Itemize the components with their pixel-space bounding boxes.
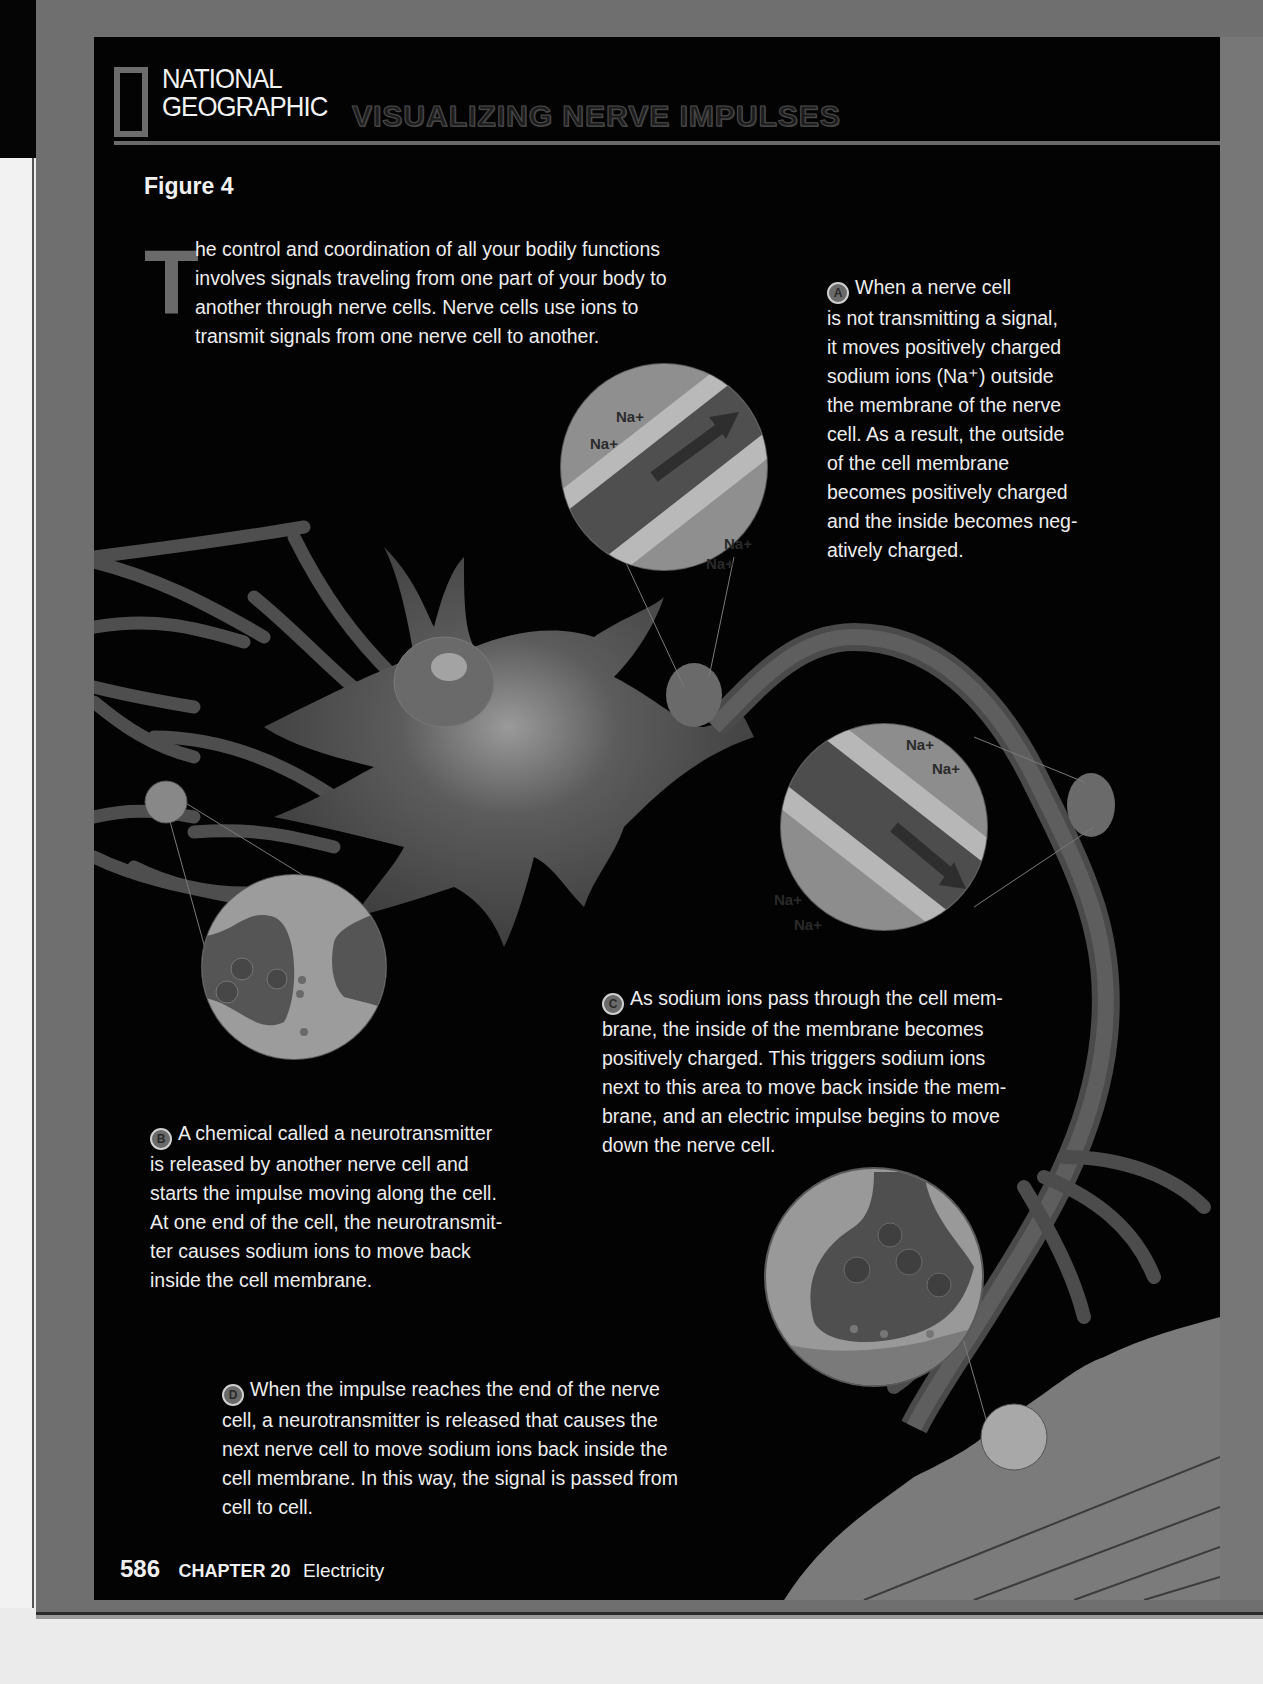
page-frame-right-edge xyxy=(1220,37,1263,1600)
intro-dropcap: T xyxy=(144,243,199,323)
chapter-title: Electricity xyxy=(303,1560,384,1581)
svg-text:Na+: Na+ xyxy=(794,916,822,933)
left-margin-page-edge xyxy=(0,158,34,1608)
svg-text:Na+: Na+ xyxy=(616,408,644,425)
svg-text:Na+: Na+ xyxy=(774,891,802,908)
badge-c-icon: C xyxy=(602,993,624,1015)
figure-label: Figure 4 xyxy=(144,173,233,200)
svg-text:Na+: Na+ xyxy=(724,535,752,552)
callout-c-text: As sodium ions pass through the cell mem… xyxy=(602,987,1006,1156)
brand-line-2: GEOGRAPHIC xyxy=(162,93,327,121)
callout-d-text: When the impulse reaches the end of the … xyxy=(222,1378,678,1518)
left-margin-dark xyxy=(0,0,36,158)
badge-a-icon: A xyxy=(827,282,849,304)
brand-wordmark: NATIONAL GEOGRAPHIC xyxy=(162,65,327,121)
callout-a-text: When a nerve cell is not transmitting a … xyxy=(827,276,1077,561)
page-number: 586 xyxy=(120,1555,160,1582)
page-footer: 586 CHAPTER 20 Electricity xyxy=(120,1555,384,1583)
callout-a: AWhen a nerve cell is not transmitting a… xyxy=(827,273,1127,565)
svg-text:Na+: Na+ xyxy=(906,736,934,753)
svg-text:Na+: Na+ xyxy=(706,555,734,572)
header-divider xyxy=(114,141,1220,145)
callout-c: CAs sodium ions pass through the cell me… xyxy=(602,984,1072,1160)
callout-b: BA chemical called a neurotransmitter is… xyxy=(150,1119,550,1295)
svg-text:Na+: Na+ xyxy=(932,760,960,777)
brand-line-1: NATIONAL xyxy=(162,65,327,93)
intro-paragraph: he control and coordination of all your … xyxy=(195,235,755,351)
page-title: VISUALIZING NERVE IMPULSES xyxy=(352,99,841,133)
callout-b-text: A chemical called a neurotransmitter is … xyxy=(150,1122,502,1291)
badge-b-icon: B xyxy=(150,1128,172,1150)
national-geographic-logo-icon xyxy=(114,67,148,137)
badge-d-icon: D xyxy=(222,1384,244,1406)
svg-text:Na+: Na+ xyxy=(590,435,618,452)
chapter-label: CHAPTER 20 xyxy=(179,1561,291,1581)
callout-d: DWhen the impulse reaches the end of the… xyxy=(222,1375,742,1522)
figure-panel: Na+ Na+ Na+ Na+ Na+ Na+ Na+ Na+ xyxy=(94,37,1220,1600)
